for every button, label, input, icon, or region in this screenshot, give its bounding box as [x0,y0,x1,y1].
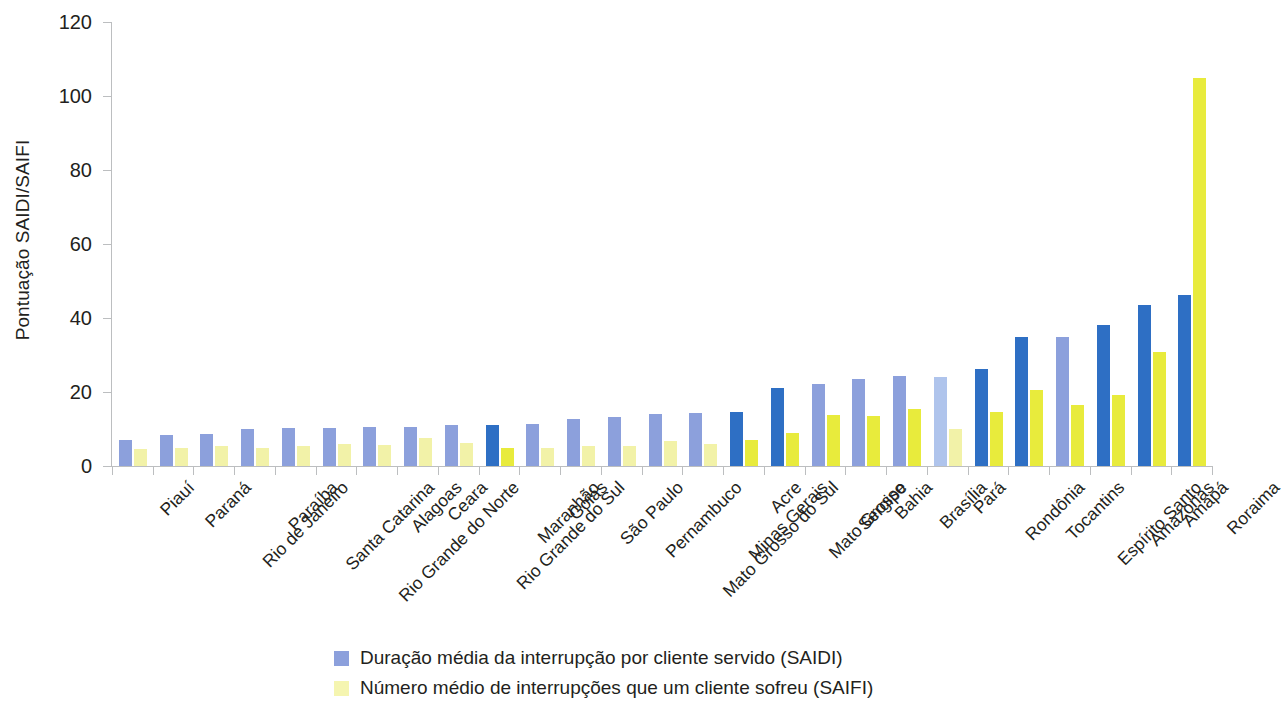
bar-group[interactable] [526,22,554,466]
bar-group[interactable] [119,22,147,466]
bar-saidi[interactable] [1056,337,1069,467]
bar-saifi[interactable] [949,429,962,466]
x-tick-mark [356,466,357,475]
bar-saifi[interactable] [338,444,351,466]
bar-saifi[interactable] [990,412,1003,466]
bar-saifi[interactable] [582,446,595,466]
legend-item[interactable]: Duração média da interrupção por cliente… [334,643,1054,673]
bar-group[interactable] [1056,22,1084,466]
x-axis-label: Piauí [156,478,197,519]
bar-saidi[interactable] [241,429,254,466]
bar-saidi[interactable] [404,427,417,466]
bar-saifi[interactable] [501,448,514,466]
bar-group[interactable] [893,22,921,466]
y-tick-label: 40 [0,308,92,328]
bar-group[interactable] [771,22,799,466]
bar-saidi[interactable] [730,412,743,466]
bar-group[interactable] [608,22,636,466]
bar-saifi[interactable] [827,415,840,466]
bar-group[interactable] [567,22,595,466]
x-tick-mark [1171,466,1172,475]
y-tick-mark [103,318,112,319]
bar-saifi[interactable] [664,441,677,466]
bar-group[interactable] [1178,22,1206,466]
bar-saidi[interactable] [608,417,621,466]
bar-saifi[interactable] [1071,405,1084,466]
bar-group[interactable] [241,22,269,466]
bar-saidi[interactable] [160,435,173,466]
bar-saidi[interactable] [1097,325,1110,466]
bar-saifi[interactable] [419,438,432,466]
bar-saidi[interactable] [975,369,988,466]
bar-group[interactable] [404,22,432,466]
x-tick-mark [723,466,724,475]
bar-group[interactable] [975,22,1003,466]
x-tick-mark [275,466,276,475]
bar-saifi[interactable] [175,448,188,467]
bar-group[interactable] [934,22,962,466]
bar-saidi[interactable] [363,427,376,466]
bar-group[interactable] [649,22,677,466]
bar-saidi[interactable] [812,384,825,467]
bar-saifi[interactable] [297,446,310,466]
y-tick-label: 80 [0,160,92,180]
bar-saidi[interactable] [445,425,458,466]
x-tick-mark [153,466,154,475]
bar-saifi[interactable] [704,444,717,466]
bar-saifi[interactable] [623,446,636,466]
bar-saifi[interactable] [745,440,758,466]
bar-saidi[interactable] [119,440,132,466]
bar-saidi[interactable] [1138,305,1151,466]
bar-saidi[interactable] [689,413,702,466]
bar-saidi[interactable] [486,425,499,466]
bar-saidi[interactable] [1178,295,1191,466]
bar-saidi[interactable] [649,414,662,466]
bar-saidi[interactable] [567,419,580,466]
y-tick-mark [103,466,112,467]
bar-group[interactable] [852,22,880,466]
bar-group[interactable] [1097,22,1125,466]
bar-saifi[interactable] [1030,390,1043,466]
bar-saidi[interactable] [200,434,213,466]
bar-saifi[interactable] [256,448,269,467]
bar-saifi[interactable] [786,433,799,466]
bar-group[interactable] [323,22,351,466]
bar-group[interactable] [689,22,717,466]
bar-saifi[interactable] [215,446,228,466]
bar-saifi[interactable] [1112,395,1125,466]
bar-group[interactable] [160,22,188,466]
x-tick-mark [316,466,317,475]
legend-item[interactable]: Número médio de interrupções que um clie… [334,673,1054,703]
legend-swatch [334,681,349,696]
bar-group[interactable] [486,22,514,466]
bar-saidi[interactable] [934,377,947,466]
bar-saifi[interactable] [908,409,921,466]
y-tick-mark [103,22,112,23]
bar-group[interactable] [282,22,310,466]
bar-group[interactable] [812,22,840,466]
bar-group[interactable] [1138,22,1166,466]
x-tick-mark [479,466,480,475]
bar-saidi[interactable] [323,428,336,466]
y-tick-mark [103,392,112,393]
x-tick-mark [1008,466,1009,475]
y-tick-label: 0 [0,456,92,476]
bar-saifi[interactable] [541,448,554,467]
bar-saidi[interactable] [282,428,295,466]
bar-saifi[interactable] [1193,78,1206,467]
bar-group[interactable] [445,22,473,466]
bar-saifi[interactable] [460,443,473,466]
bar-group[interactable] [363,22,391,466]
bar-group[interactable] [730,22,758,466]
bar-saidi[interactable] [893,376,906,466]
bar-saifi[interactable] [1153,352,1166,466]
bar-group[interactable] [200,22,228,466]
bar-saifi[interactable] [134,449,147,466]
bar-saidi[interactable] [526,424,539,466]
bar-saifi[interactable] [378,445,391,466]
bar-group[interactable] [1015,22,1043,466]
bar-saidi[interactable] [771,388,784,466]
bar-saidi[interactable] [852,379,865,466]
bar-saifi[interactable] [867,416,880,466]
bar-saidi[interactable] [1015,337,1028,467]
